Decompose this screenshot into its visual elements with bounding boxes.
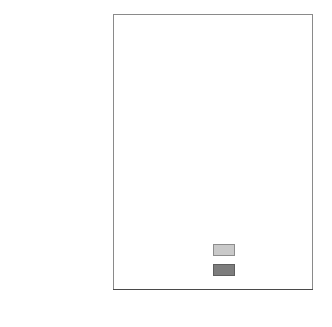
x-axis-line [113,289,313,290]
legend-item-male [213,262,241,277]
legend-swatch-male-icon [213,264,235,276]
chart-legend [213,242,241,282]
socialization-score-bar-chart [0,0,332,327]
category-axis-labels [0,0,110,327]
legend-item-female [213,242,241,257]
legend-swatch-female-icon [213,244,235,256]
axis-break-gap [114,15,119,289]
